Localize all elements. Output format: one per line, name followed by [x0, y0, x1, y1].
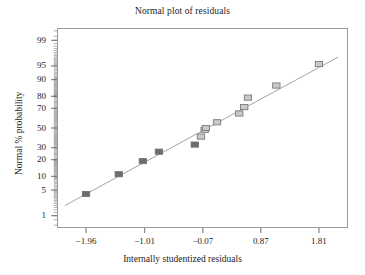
- normal-probability-plot-figure: Normal plot of residuals Normal % probab…: [0, 0, 365, 275]
- data-point-marker[interactable]: [315, 61, 322, 66]
- y-axis-tick-label: 99: [16, 36, 46, 45]
- data-point-marker[interactable]: [202, 125, 209, 130]
- y-axis-tick-label: 80: [16, 92, 46, 101]
- data-point-marker[interactable]: [213, 120, 220, 125]
- x-axis-tick-label: −1.01: [122, 237, 168, 246]
- y-axis-tick-label: 20: [16, 155, 46, 164]
- data-point-marker[interactable]: [82, 191, 89, 196]
- x-axis-tick-label: −1.96: [63, 237, 109, 246]
- y-axis-tick-label: 95: [16, 61, 46, 70]
- data-point-marker[interactable]: [115, 172, 122, 177]
- x-axis-tick-label: 1.81: [296, 237, 342, 246]
- y-axis-tick-label: 10: [16, 172, 46, 181]
- y-axis-tick-label: 1: [16, 211, 46, 220]
- y-axis-tick-label: 70: [16, 104, 46, 113]
- y-axis-tick-label: 30: [16, 143, 46, 152]
- x-axis-tick-label: −0.07: [180, 237, 226, 246]
- data-point-marker[interactable]: [139, 159, 146, 164]
- data-point-marker[interactable]: [241, 105, 248, 110]
- data-point-marker[interactable]: [197, 134, 204, 139]
- data-point-marker[interactable]: [236, 111, 243, 116]
- y-axis-tick-label: 90: [16, 75, 46, 84]
- x-axis-tick-label: 0.87: [238, 237, 284, 246]
- data-point-marker[interactable]: [191, 142, 198, 147]
- plot-drawing-layer: [0, 0, 365, 275]
- y-axis-tick-label: 50: [16, 124, 46, 133]
- data-point-marker[interactable]: [244, 95, 251, 100]
- y-axis-tick-label: 5: [16, 186, 46, 195]
- data-point-marker[interactable]: [155, 149, 162, 154]
- data-point-marker[interactable]: [273, 83, 280, 88]
